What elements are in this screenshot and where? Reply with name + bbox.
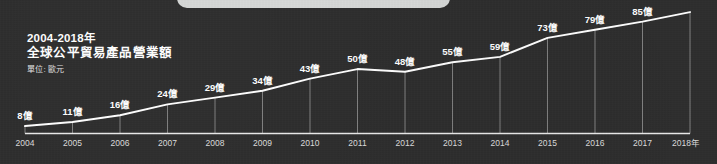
value-label-2012: 48億 xyxy=(395,56,416,67)
x-tick-2007: 2007 xyxy=(158,138,177,148)
value-label-2005: 11億 xyxy=(62,106,82,117)
x-tick-2016: 2016 xyxy=(586,138,605,148)
value-label-2015: 73億 xyxy=(537,22,558,33)
x-tick-2014: 2014 xyxy=(491,138,510,148)
unit-label: 單位: 歐元 xyxy=(27,64,172,75)
title-block: 2004-2018年 全球公平貿易產品營業額 單位: 歐元 xyxy=(27,32,172,75)
value-label-2016: 79億 xyxy=(585,14,606,25)
x-tick-2013: 2013 xyxy=(443,138,462,148)
value-label-2004: 8億 xyxy=(17,110,32,121)
value-label-2014: 59億 xyxy=(490,41,511,52)
x-tick-2006: 2006 xyxy=(111,138,130,148)
chart-x-tick-labels: 2004200520062007200820092010201120122013… xyxy=(16,138,700,148)
value-label-2007: 24億 xyxy=(157,88,178,99)
page-title-years: 2004-2018年 xyxy=(27,32,172,45)
value-label-2010: 43億 xyxy=(300,63,321,74)
x-tick-2004: 2004 xyxy=(16,138,35,148)
x-tick-2009: 2009 xyxy=(253,138,272,148)
chart-svg: 8億11億16億24億29億34億43億50億48億55億59億73億79億85… xyxy=(0,0,717,164)
x-tick-2005: 2005 xyxy=(63,138,82,148)
x-tick-2015: 2015 xyxy=(538,138,557,148)
page-title-main: 全球公平貿易產品營業額 xyxy=(27,46,172,61)
x-tick-2012: 2012 xyxy=(396,138,415,148)
value-label-2006: 16億 xyxy=(110,99,131,110)
value-label-2011: 50億 xyxy=(347,53,368,64)
x-tick-2018年: 2018年 xyxy=(672,138,700,148)
value-label-2008: 29億 xyxy=(205,82,226,93)
x-tick-2017: 2017 xyxy=(633,138,652,148)
value-label-2013: 55億 xyxy=(442,46,463,57)
x-tick-2008: 2008 xyxy=(206,138,225,148)
x-tick-2011: 2011 xyxy=(348,138,367,148)
value-label-2017: 85億 xyxy=(632,6,653,17)
x-tick-2010: 2010 xyxy=(301,138,320,148)
line-chart: 8億11億16億24億29億34億43億50億48億55億59億73億79億85… xyxy=(0,0,717,164)
value-label-2009: 34億 xyxy=(252,75,273,86)
